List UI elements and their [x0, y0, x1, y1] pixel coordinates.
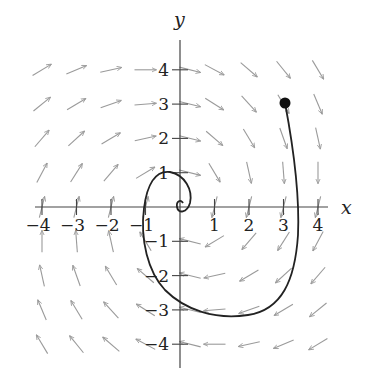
- direction-arrow: [104, 302, 119, 318]
- direction-arrow: [100, 67, 121, 72]
- direction-arrow: [71, 300, 82, 319]
- x-tick-label: −2: [94, 215, 119, 235]
- direction-arrow: [73, 265, 80, 286]
- x-tick-label: −3: [60, 215, 85, 235]
- direction-arrow: [135, 136, 156, 141]
- direction-arrow: [309, 303, 326, 317]
- y-axis-label: y: [173, 8, 185, 30]
- y-tick-label: −1: [144, 231, 169, 251]
- direction-arrow: [280, 128, 287, 149]
- direction-arrow: [274, 304, 293, 315]
- direction-arrow: [33, 97, 50, 111]
- direction-arrow: [37, 163, 47, 182]
- direction-arrow: [312, 60, 323, 79]
- direction-arrow: [277, 61, 291, 78]
- direction-arrow: [68, 131, 84, 146]
- direction-arrow: [67, 98, 86, 109]
- x-tick-label: 2: [244, 215, 255, 235]
- y-tick-label: 3: [158, 94, 169, 114]
- x-tick-label: −4: [25, 215, 50, 235]
- direction-arrow: [241, 63, 258, 77]
- direction-arrow: [40, 265, 45, 286]
- direction-arrow: [314, 94, 323, 114]
- x-tick-label: 3: [278, 215, 289, 235]
- direction-arrow: [204, 273, 225, 278]
- direction-arrow: [36, 335, 47, 354]
- direction-arrow: [33, 64, 52, 75]
- y-tick-label: −4: [144, 334, 169, 354]
- direction-arrow: [247, 162, 252, 183]
- direction-arrow: [70, 336, 84, 353]
- direction-arrow: [205, 65, 224, 75]
- direction-arrow: [242, 233, 256, 250]
- y-tick-label: 2: [158, 128, 169, 148]
- direction-arrow: [204, 309, 226, 311]
- direction-arrow: [135, 103, 157, 105]
- direction-arrow: [240, 270, 259, 281]
- y-tick-label: −2: [144, 266, 169, 286]
- direction-arrow: [242, 96, 257, 112]
- direction-arrow: [309, 339, 328, 350]
- direction-field-plot: −4−3−2−11234−4−3−2−11234 x y: [0, 0, 369, 386]
- direction-arrow: [209, 163, 220, 182]
- direction-arrow: [104, 164, 118, 181]
- x-axis-label: x: [341, 196, 352, 218]
- direction-arrow: [283, 162, 285, 184]
- direction-arrow: [205, 98, 224, 110]
- direction-arrow: [35, 130, 49, 147]
- direction-arrow: [102, 133, 121, 144]
- x-tick-label: 4: [313, 215, 324, 235]
- direction-arrow: [206, 131, 223, 145]
- direction-arrow: [311, 267, 325, 284]
- x-tick-label: 1: [209, 215, 220, 235]
- direction-arrow: [105, 266, 116, 285]
- direction-arrow: [238, 342, 259, 347]
- direction-arrow: [71, 163, 83, 182]
- direction-arrow: [243, 129, 254, 148]
- y-tick-label: 4: [158, 60, 169, 80]
- direction-arrow: [101, 100, 122, 107]
- y-tick-label: −3: [144, 300, 169, 320]
- direction-arrow: [205, 236, 224, 247]
- direction-arrow: [136, 167, 155, 178]
- direction-arrow: [103, 337, 120, 351]
- direction-arrow: [66, 66, 86, 75]
- direction-arrow: [316, 128, 321, 149]
- direction-arrow: [273, 340, 293, 349]
- start-point-marker: [280, 98, 291, 109]
- direction-arrow: [38, 300, 47, 320]
